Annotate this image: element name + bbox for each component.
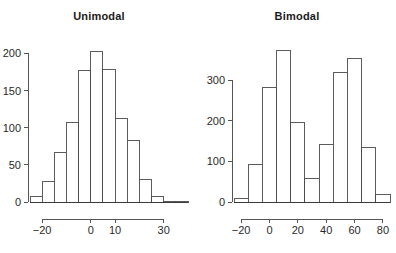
histogram-bar [91, 52, 103, 202]
x-tick-label: 30 [158, 224, 170, 236]
panel-unimodal: Unimodal 050100150200−2001030 [0, 0, 198, 253]
panel-bimodal: Bimodal 0100200300−20020406080 [198, 0, 396, 253]
histogram-bar [248, 164, 262, 202]
x-tick-label: 10 [109, 224, 121, 236]
y-tick-label: 50 [9, 159, 21, 171]
histogram-bar [291, 122, 305, 202]
histogram-bar [333, 72, 347, 202]
histogram-bar [115, 119, 127, 202]
y-tick-label: 200 [3, 47, 21, 59]
histogram-bar [376, 195, 390, 202]
y-tick-label: 100 [3, 122, 21, 134]
histogram-bar [103, 69, 115, 202]
histogram-bar [347, 59, 361, 202]
histogram-bar [305, 179, 319, 202]
histogram-bar [30, 197, 42, 202]
x-tick-label: −20 [33, 224, 52, 236]
histogram-bar [262, 87, 276, 202]
histogram-bar [277, 50, 291, 202]
y-tick-label: 0 [219, 196, 225, 208]
histogram-bar [152, 196, 164, 202]
histogram-plot-bimodal: 0100200300−20020406080 [198, 0, 396, 253]
x-tick-label: 20 [292, 224, 304, 236]
y-tick-label: 150 [3, 85, 21, 97]
y-tick-label: 100 [207, 155, 225, 167]
figure-bottom-margin [0, 247, 396, 253]
histogram-bar [42, 182, 54, 202]
y-tick-label: 300 [207, 74, 225, 86]
x-tick-label: 60 [348, 224, 360, 236]
histogram-bar [319, 144, 333, 202]
histogram-figure: Unimodal 050100150200−2001030 Bimodal 01… [0, 0, 396, 253]
histogram-bar [362, 147, 376, 202]
histogram-bar [54, 152, 66, 202]
histogram-plot-unimodal: 050100150200−2001030 [0, 0, 198, 253]
histogram-bar [127, 140, 139, 202]
x-tick-label: 80 [377, 224, 389, 236]
histogram-bar [79, 71, 91, 202]
histogram-bar [139, 180, 151, 202]
x-tick-label: 40 [320, 224, 332, 236]
x-tick-label: 0 [88, 224, 94, 236]
x-tick-label: −20 [232, 224, 251, 236]
histogram-bar [66, 123, 78, 202]
y-tick-label: 0 [15, 196, 21, 208]
y-tick-label: 200 [207, 115, 225, 127]
x-tick-label: 0 [266, 224, 272, 236]
